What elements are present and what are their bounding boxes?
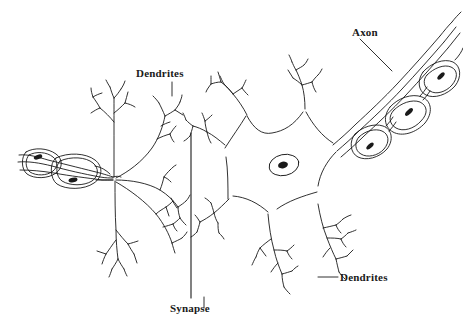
neuron-diagram-figure: Dendrites Axon Dendrites Synapse — [0, 0, 463, 326]
right-dendrite-lower-right — [318, 204, 356, 279]
right-dendrite-lower-left — [191, 198, 229, 239]
right-dendrite-upper-right — [288, 55, 322, 109]
right-neuron — [183, 12, 463, 294]
right-dendrite-lower-middle — [252, 214, 298, 294]
neuron-diagram-svg — [0, 0, 463, 326]
right-neuron-soma — [225, 112, 336, 212]
label-dendrites-top: Dendrites — [136, 68, 184, 79]
label-leader-lines — [172, 39, 392, 308]
diagram-strokes — [18, 12, 463, 308]
left-dendrite-middle-right — [116, 165, 190, 225]
label-axon: Axon — [352, 27, 378, 38]
label-dendrites-right: Dendrites — [340, 272, 388, 283]
leader-axon — [360, 39, 392, 71]
left-myelinated-axon — [18, 149, 113, 189]
left-neuron — [18, 80, 190, 277]
label-synapse: Synapse — [170, 303, 210, 314]
right-dendrite-left — [183, 113, 225, 145]
left-dendrite-lower — [97, 181, 138, 277]
soma-nucleolus — [277, 161, 288, 170]
right-dendrite-upper-left — [206, 72, 248, 115]
left-dendrite-upper-right — [116, 95, 183, 178]
